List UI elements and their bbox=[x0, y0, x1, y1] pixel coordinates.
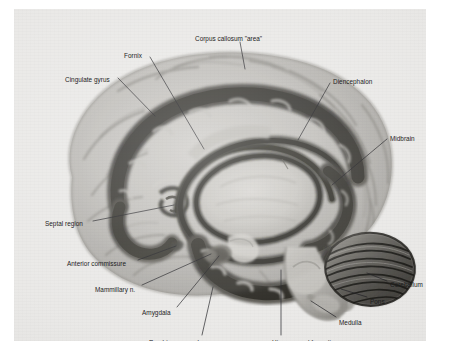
leader-line-septal-region bbox=[93, 205, 174, 221]
leader-line-diencephalon bbox=[298, 83, 330, 140]
leader-line-midbrain bbox=[332, 139, 387, 185]
label-pons: Pons bbox=[370, 298, 385, 305]
plate-bottom-margin bbox=[0, 341, 450, 364]
label-diencephalon: Diencephalon bbox=[333, 78, 372, 85]
leader-line-corpus-callosum-area bbox=[240, 42, 245, 69]
leader-line-mammillary-n bbox=[142, 254, 211, 285]
leader-line-cerebellum bbox=[367, 273, 387, 281]
leader-line-amygdala bbox=[177, 256, 219, 307]
label-cerebellum: Cerebellum bbox=[390, 281, 423, 288]
leader-lines bbox=[14, 9, 426, 341]
label-mammillary-n: Mammillary n. bbox=[95, 286, 135, 293]
label-cingulate-gyrus: Cingulate gyrus bbox=[65, 76, 110, 83]
leader-line-cingulate-gyrus bbox=[118, 78, 155, 116]
label-septal-region: Septal region bbox=[45, 220, 83, 227]
label-fornix: Fornix bbox=[124, 52, 142, 59]
leader-line-pons bbox=[341, 289, 367, 297]
leader-line-fornix bbox=[150, 57, 204, 149]
label-anterior-commissure: Anterior commissure bbox=[67, 260, 126, 267]
figure-root: Corpus callosum "area"FornixCingulate gy… bbox=[0, 0, 450, 364]
leader-line-anterior-commissure bbox=[138, 246, 176, 260]
leader-line-medulla bbox=[311, 301, 336, 317]
anatomy-plate: Corpus callosum "area"FornixCingulate gy… bbox=[14, 9, 426, 341]
label-midbrain: Midbrain bbox=[390, 135, 415, 142]
label-medulla: Medulla bbox=[339, 319, 362, 326]
label-corpus-callosum-area: Corpus callosum "area" bbox=[195, 35, 262, 42]
label-amygdala: Amygdala bbox=[142, 309, 171, 316]
leader-line-parahippocampal-gyrus bbox=[202, 287, 213, 335]
